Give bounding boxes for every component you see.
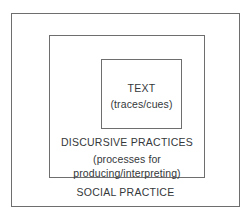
discursive-practices-sublabel-line2: producing/interpreting): [50, 167, 204, 180]
discursive-practices-sublabel-line1: (processes for: [50, 153, 204, 166]
text-box-labels: TEXT (traces/cues): [102, 82, 181, 111]
social-practice-labels: SOCIAL PRACTICE: [12, 186, 239, 199]
text-box: TEXT (traces/cues): [101, 59, 182, 129]
discursive-practices-label: DISCURSIVE PRACTICES: [50, 136, 204, 149]
text-label: TEXT: [102, 82, 181, 95]
text-sublabel: (traces/cues): [102, 98, 181, 111]
social-practice-label: SOCIAL PRACTICE: [12, 186, 239, 199]
figure-root: TEXT (traces/cues) DISCURSIVE PRACTICES …: [0, 0, 251, 220]
discursive-practices-box: TEXT (traces/cues) DISCURSIVE PRACTICES …: [49, 35, 205, 178]
social-practice-box: TEXT (traces/cues) DISCURSIVE PRACTICES …: [11, 13, 240, 207]
discursive-practices-labels: DISCURSIVE PRACTICES (processes for prod…: [50, 136, 204, 181]
